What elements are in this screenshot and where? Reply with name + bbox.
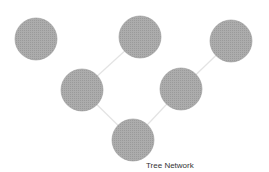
nodes-group: [15, 16, 252, 161]
node-mid-right: [160, 68, 202, 110]
node-top-right: [210, 20, 252, 62]
links-group: [82, 37, 231, 140]
diagram-caption: Tree Network: [146, 161, 194, 170]
tree-network-diagram: [0, 0, 269, 172]
node-top-left: [15, 18, 57, 60]
node-mid-left: [61, 69, 103, 111]
node-top-middle: [119, 16, 161, 58]
node-bottom: [112, 119, 154, 161]
